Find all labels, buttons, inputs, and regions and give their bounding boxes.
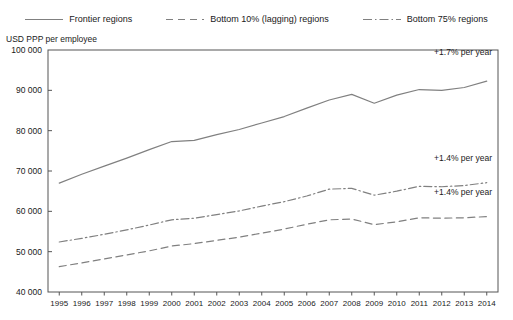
x-axis-tick-label: 2001 [185,299,203,308]
x-axis-tick-label: 2006 [298,299,316,308]
x-axis-tick-label: 2000 [163,299,181,308]
annotation-growth-rate: +1.7% per year [434,47,492,57]
plot-area: 40 00050 00060 00070 00080 00090 000100 … [0,0,513,320]
y-axis-tick-label: 50 000 [16,247,42,257]
x-axis-tick-label: 2003 [230,299,248,308]
x-axis-tick-label: 1998 [118,299,136,308]
x-axis-tick-label: 2004 [253,299,271,308]
chart-container: Frontier regions Bottom 10% (lagging) re… [0,0,513,320]
y-axis-ticks: 40 00050 00060 00070 00080 00090 000100 … [11,45,52,297]
annotation-growth-rate: +1.4% per year [434,153,492,163]
x-axis-tick-label: 2007 [320,299,338,308]
series-line-frontier-regions [59,81,487,183]
x-axis-tick-label: 2014 [478,299,496,308]
data-series-group [59,81,487,267]
y-axis-tick-label: 80 000 [16,126,42,136]
x-axis-tick-label: 2012 [433,299,451,308]
series-line-bottom-75-regions [59,183,487,242]
annotation-group: +1.7% per year+1.4% per year+1.4% per ye… [434,47,492,197]
annotation-growth-rate: +1.4% per year [434,187,492,197]
y-axis-tick-label: 100 000 [11,45,42,55]
x-axis-tick-label: 1995 [50,299,68,308]
x-axis-tick-label: 2002 [208,299,226,308]
x-axis-tick-label: 1999 [140,299,158,308]
x-axis-tick-label: 2011 [411,299,429,308]
y-axis-tick-label: 40 000 [16,287,42,297]
x-axis-tick-label: 2013 [455,299,473,308]
x-axis-tick-label: 1996 [73,299,91,308]
y-axis-tick-label: 90 000 [16,85,42,95]
x-axis-tick-label: 1997 [95,299,113,308]
y-axis-tick-label: 70 000 [16,166,42,176]
x-axis-tick-label: 2008 [343,299,361,308]
x-axis-tick-label: 2009 [365,299,383,308]
y-axis-tick-label: 60 000 [16,206,42,216]
x-axis-ticks: 1995199619971998199920002001200220032004… [50,292,496,308]
x-axis-tick-label: 2005 [275,299,293,308]
x-axis-tick-label: 2010 [388,299,406,308]
series-line-bottom-10-lagging-regions [59,217,487,267]
plot-frame [48,50,498,292]
